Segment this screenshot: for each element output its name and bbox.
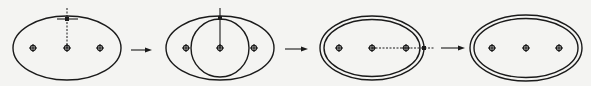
center-mark-icon (96, 44, 104, 52)
arrow-right-icon (131, 48, 152, 53)
center-mark-icon (182, 44, 190, 52)
center-mark-icon (335, 44, 343, 52)
arrow-right-icon (285, 47, 308, 52)
center-mark-icon (368, 44, 376, 52)
ellipse-offset-diagram (0, 0, 591, 86)
center-mark-icon (216, 44, 224, 52)
center-mark-icon (555, 44, 563, 52)
arrow-head (301, 47, 308, 52)
center-mark-icon (488, 44, 496, 52)
picked-point-marker (218, 16, 222, 20)
step-2 (166, 8, 274, 80)
step-4 (470, 15, 582, 81)
arrow-head (458, 46, 465, 51)
picked-point-marker (422, 46, 426, 50)
center-mark-icon (29, 44, 37, 52)
diagram-layer (13, 8, 582, 81)
step-1 (13, 8, 121, 80)
arrow-head (145, 48, 152, 53)
step-3 (320, 16, 434, 80)
picked-point-marker (65, 17, 69, 21)
center-mark-icon (522, 44, 530, 52)
center-mark-icon (402, 44, 410, 52)
center-mark-icon (250, 44, 258, 52)
arrow-right-icon (441, 46, 465, 51)
center-mark-icon (63, 44, 71, 52)
